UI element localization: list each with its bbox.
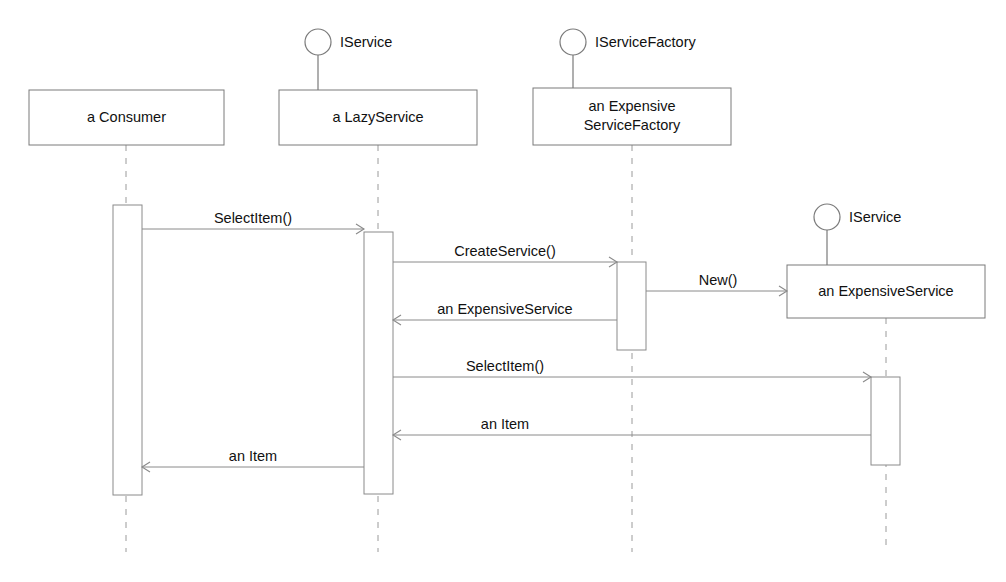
interface-label-expensiveservice: IService <box>849 209 901 225</box>
act-expensiveservice[interactable] <box>871 377 900 465</box>
interface-lollipop-icon-factory <box>560 29 586 55</box>
interface-label-factory: IServiceFactory <box>595 34 696 50</box>
diagram-svg: a ConsumerIServicea LazyServiceIServiceF… <box>0 0 1006 582</box>
msg-new-label: New() <box>699 272 738 288</box>
interface-lollipop-icon-expensiveservice <box>814 204 840 230</box>
msg-selectitem-2-label: SelectItem() <box>466 358 544 374</box>
participant-label-factory-line1: an Expensive <box>588 98 675 114</box>
sequence-diagram-canvas: a ConsumerIServicea LazyServiceIServiceF… <box>0 0 1006 582</box>
participant-label-consumer: a Consumer <box>87 109 166 125</box>
msg-createservice-label: CreateService() <box>454 243 556 259</box>
msg-return-item-1-label: an Item <box>481 416 529 432</box>
act-consumer[interactable] <box>113 205 142 495</box>
msg-return-item-2-label: an Item <box>229 448 277 464</box>
act-factory[interactable] <box>617 262 646 350</box>
participant-boxes-layer: a ConsumerIServicea LazyServiceIServiceF… <box>29 29 985 318</box>
messages-layer: SelectItem()CreateService()New()an Expen… <box>142 210 871 467</box>
interface-label-lazyservice: IService <box>340 34 392 50</box>
participant-label-factory-line2: ServiceFactory <box>584 117 681 133</box>
interface-lollipop-icon-lazyservice <box>305 29 331 55</box>
participant-label-lazyservice: a LazyService <box>332 109 423 125</box>
msg-return-expensiveservice-label: an ExpensiveService <box>437 301 572 317</box>
act-lazyservice[interactable] <box>364 232 393 494</box>
msg-selectitem-1-label: SelectItem() <box>214 210 292 226</box>
lifelines-layer <box>126 145 886 552</box>
participant-label-expensiveservice: an ExpensiveService <box>818 283 953 299</box>
